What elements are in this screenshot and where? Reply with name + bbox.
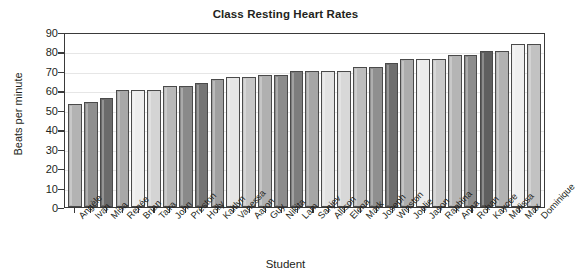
- bar[interactable]: [226, 77, 240, 207]
- y-tick-label: 30: [18, 144, 58, 156]
- bar[interactable]: [147, 90, 161, 207]
- bar[interactable]: [464, 55, 478, 207]
- x-tick-mark: [74, 208, 75, 213]
- bar[interactable]: [495, 51, 509, 207]
- bar[interactable]: [290, 71, 304, 207]
- bar[interactable]: [480, 51, 494, 207]
- bar[interactable]: [527, 44, 541, 207]
- bar[interactable]: [100, 98, 114, 207]
- y-tick-mark: [58, 208, 64, 209]
- bar[interactable]: [211, 79, 225, 207]
- bar[interactable]: [511, 44, 525, 207]
- bar[interactable]: [305, 71, 319, 207]
- bar[interactable]: [84, 102, 98, 207]
- bar[interactable]: [416, 59, 430, 207]
- bar[interactable]: [242, 77, 256, 207]
- y-tick-label: 90: [18, 27, 58, 39]
- bar-series: [65, 34, 544, 207]
- bar[interactable]: [432, 59, 446, 207]
- bar[interactable]: [179, 86, 193, 207]
- y-tick-label: 0: [18, 202, 58, 214]
- bar[interactable]: [385, 63, 399, 207]
- bar[interactable]: [337, 71, 351, 207]
- y-tick-label: 70: [18, 66, 58, 78]
- bar[interactable]: [116, 90, 130, 207]
- bar[interactable]: [448, 55, 462, 207]
- chart-title: Class Resting Heart Rates: [0, 8, 571, 20]
- bar[interactable]: [321, 71, 335, 207]
- y-tick-label: 80: [18, 46, 58, 58]
- x-axis-label: Student: [0, 258, 571, 270]
- y-tick-label: 20: [18, 163, 58, 175]
- bar[interactable]: [353, 67, 367, 207]
- bar[interactable]: [369, 67, 383, 207]
- bar[interactable]: [68, 104, 82, 207]
- y-tick-label: 60: [18, 85, 58, 97]
- bar[interactable]: [195, 83, 209, 207]
- plot-area: [64, 33, 545, 208]
- bar[interactable]: [400, 59, 414, 207]
- bar[interactable]: [131, 90, 145, 207]
- y-tick-label: 50: [18, 105, 58, 117]
- bar[interactable]: [274, 75, 288, 207]
- y-tick-label: 40: [18, 124, 58, 136]
- y-tick-label: 10: [18, 183, 58, 195]
- bar[interactable]: [163, 86, 177, 207]
